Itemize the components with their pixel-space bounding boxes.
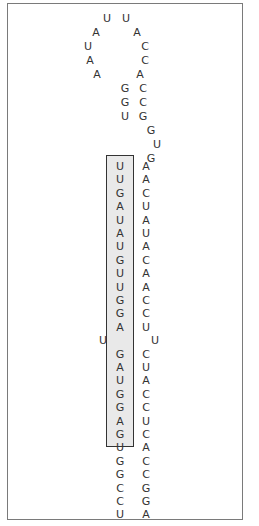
stem-right-nucleotide: A: [140, 282, 152, 294]
loop-nucleotide: A: [131, 27, 143, 39]
stem-left-nucleotide: U: [114, 241, 126, 253]
stem-left-nucleotide: A: [114, 201, 126, 213]
loop-nucleotide: C: [139, 55, 151, 67]
stem-right-nucleotide: C: [140, 456, 152, 468]
loop-nucleotide: U: [101, 13, 113, 25]
stem-left-nucleotide: G: [114, 349, 126, 361]
stem-left-nucleotide: A: [114, 228, 126, 240]
stem-left-nucleotide: G: [114, 456, 126, 468]
stem-right-nucleotide: C: [140, 349, 152, 361]
stem-left-nucleotide: C: [114, 496, 126, 508]
loop-nucleotide: A: [91, 69, 103, 81]
stem-right-nucleotide: C: [140, 308, 152, 320]
stem-right-nucleotide: U: [140, 228, 152, 240]
stem-left-nucleotide: U: [114, 442, 126, 454]
stem-right-nucleotide: U: [149, 335, 161, 347]
stem-right-nucleotide: C: [140, 402, 152, 414]
stem-left-nucleotide: U: [114, 174, 126, 186]
stem-left-nucleotide: U: [114, 268, 126, 280]
stem-right-nucleotide: A: [140, 161, 152, 173]
loop-nucleotide: C: [139, 41, 151, 53]
stem-left-nucleotide: G: [114, 402, 126, 414]
stem-right-nucleotide: G: [140, 496, 152, 508]
loop-nucleotide: G: [119, 97, 131, 109]
stem-right-nucleotide: U: [140, 322, 152, 334]
loop-nucleotide: A: [134, 69, 146, 81]
stem-left-nucleotide: G: [114, 429, 126, 441]
loop-nucleotide: G: [137, 111, 149, 123]
stem-left-nucleotide: G: [114, 255, 126, 267]
stem-left-nucleotide: U: [114, 375, 126, 387]
stem-left-nucleotide: G: [114, 188, 126, 200]
stem-right-nucleotide: U: [140, 416, 152, 428]
stem-left-nucleotide: G: [114, 389, 126, 401]
stem-left-nucleotide: G: [114, 308, 126, 320]
loop-nucleotide: U: [120, 13, 132, 25]
stem-right-nucleotide: A: [140, 215, 152, 227]
stem-right-nucleotide: C: [140, 429, 152, 441]
loop-nucleotide: C: [137, 97, 149, 109]
loop-nucleotide: A: [84, 55, 96, 67]
stem-left-nucleotide: A: [114, 416, 126, 428]
stem-right-nucleotide: C: [140, 255, 152, 267]
stem-left-nucleotide: U: [97, 335, 109, 347]
stem-right-nucleotide: U: [140, 362, 152, 374]
stem-right-nucleotide: A: [140, 442, 152, 454]
loop-nucleotide: G: [119, 83, 131, 95]
stem-left-nucleotide: U: [114, 215, 126, 227]
stem-right-nucleotide: C: [140, 295, 152, 307]
loop-nucleotide: G: [145, 125, 157, 137]
loop-nucleotide: U: [82, 41, 94, 53]
stem-right-nucleotide: A: [140, 509, 152, 521]
stem-left-nucleotide: A: [114, 322, 126, 334]
stem-right-nucleotide: A: [140, 174, 152, 186]
stem-left-nucleotide: U: [114, 509, 126, 521]
stem-right-nucleotide: G: [140, 483, 152, 495]
stem-right-nucleotide: A: [140, 375, 152, 387]
stem-right-nucleotide: C: [140, 389, 152, 401]
stem-left-nucleotide: G: [114, 295, 126, 307]
loop-nucleotide: U: [151, 139, 163, 151]
loop-nucleotide: A: [90, 27, 102, 39]
stem-left-nucleotide: G: [114, 469, 126, 481]
stem-left-nucleotide: U: [114, 282, 126, 294]
stem-left-nucleotide: C: [114, 483, 126, 495]
stem-right-nucleotide: U: [140, 201, 152, 213]
loop-nucleotide: C: [137, 83, 149, 95]
stem-right-nucleotide: C: [140, 188, 152, 200]
loop-nucleotide: U: [119, 111, 131, 123]
stem-right-nucleotide: C: [140, 469, 152, 481]
stem-right-nucleotide: A: [140, 268, 152, 280]
stem-left-nucleotide: U: [114, 161, 126, 173]
stem-right-nucleotide: A: [140, 241, 152, 253]
stem-left-nucleotide: A: [114, 362, 126, 374]
